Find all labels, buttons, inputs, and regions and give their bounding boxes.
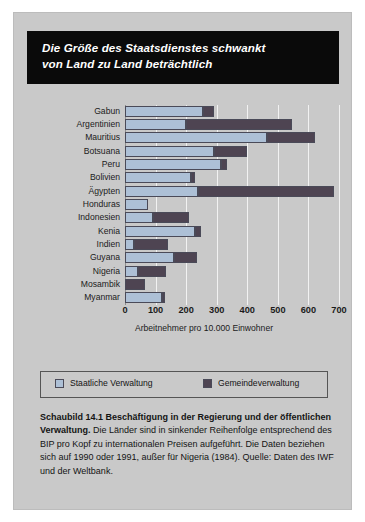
legend-swatch-dark bbox=[203, 379, 212, 388]
chart-bar-row: Ägypten bbox=[27, 186, 339, 199]
legend-label-gemeindeverwaltung: Gemeindeverwaltung bbox=[218, 378, 299, 388]
x-axis-title: Arbeitnehmer pro 10.000 Einwohner bbox=[27, 323, 339, 333]
chart-bar-row: Mosambik bbox=[27, 279, 339, 292]
bar-segment-staatliche bbox=[125, 292, 162, 303]
chart-bar-row: Indien bbox=[27, 239, 339, 252]
x-tick-label-100: 100 bbox=[141, 305, 171, 315]
legend-swatch-light bbox=[55, 379, 64, 388]
chart-bar-row: Guyana bbox=[27, 252, 339, 265]
figure-title-line-2: von Land zu Land beträchtlich bbox=[42, 57, 212, 70]
y-axis-label-nigeria: Nigeria bbox=[27, 265, 120, 278]
bar-chart: GabunArgentinienMauritiusBotsuanaPeruBol… bbox=[27, 91, 339, 319]
bar-segment-gemeinde bbox=[214, 146, 248, 157]
y-axis-label-myanmar: Myanmar bbox=[27, 291, 120, 304]
bar-segment-gemeinde bbox=[267, 132, 314, 143]
chart-bar-row: Botsuana bbox=[27, 146, 339, 159]
chart-legend: Staatliche Verwaltung Gemeindeverwaltung bbox=[40, 371, 328, 398]
x-tick-label-700: 700 bbox=[324, 305, 354, 315]
chart-bar-row: Argentinien bbox=[27, 119, 339, 132]
y-axis-label-guyana: Guyana bbox=[27, 251, 120, 264]
y-axis-label-indonesien: Indonesien bbox=[27, 211, 120, 224]
bar-segment-gemeinde bbox=[138, 266, 166, 277]
bar-segment-gemeinde bbox=[198, 186, 334, 197]
figure-caption: Schaubild 14.1 Beschäftigung in der Regi… bbox=[40, 411, 336, 478]
x-tick-label-500: 500 bbox=[263, 305, 293, 315]
chart-plot-area: GabunArgentinienMauritiusBotsuanaPeruBol… bbox=[27, 91, 339, 346]
bar-segment-staatliche bbox=[125, 226, 195, 237]
y-axis-label-botsuana: Botsuana bbox=[27, 145, 120, 158]
figure-title: Die Größe des Staatsdienstes schwankt vo… bbox=[42, 40, 332, 71]
bar-segment-gemeinde bbox=[191, 172, 196, 183]
bar-segment-gemeinde bbox=[195, 226, 201, 237]
bar-segment-staatliche bbox=[125, 146, 214, 157]
chart-bar-row: Nigeria bbox=[27, 266, 339, 279]
chart-bar-row: Kenia bbox=[27, 226, 339, 239]
chart-bar-row: Mauritius bbox=[27, 132, 339, 145]
bar-segment-gemeinde bbox=[153, 212, 190, 223]
x-tick-label-0: 0 bbox=[110, 305, 140, 315]
chart-bar-rows: GabunArgentinienMauritiusBotsuanaPeruBol… bbox=[27, 105, 339, 305]
legend-item-gemeindeverwaltung: Gemeindeverwaltung bbox=[203, 378, 299, 388]
bar-segment-gemeinde bbox=[174, 252, 197, 263]
chart-bar-row: Indonesien bbox=[27, 212, 339, 225]
bar-segment-staatliche bbox=[125, 212, 153, 223]
bar-segment-gemeinde bbox=[203, 106, 214, 117]
chart-bar-row: Myanmar bbox=[27, 292, 339, 305]
bar-segment-staatliche bbox=[125, 132, 267, 143]
y-axis-label-mauritius: Mauritius bbox=[27, 131, 120, 144]
chart-bar-row: Honduras bbox=[27, 199, 339, 212]
figure-title-line-1: Die Größe des Staatsdienstes schwankt bbox=[42, 41, 265, 54]
y-axis-label-bolivien: Bolivien bbox=[27, 171, 120, 184]
bar-segment-staatliche bbox=[125, 252, 174, 263]
y-axis-label-gabun: Gabun bbox=[27, 105, 120, 118]
x-tick-label-200: 200 bbox=[171, 305, 201, 315]
y-axis-label-argentinien: Argentinien bbox=[27, 118, 120, 131]
chart-bar-row: Gabun bbox=[27, 106, 339, 119]
x-axis-ticks: 0100200300400500600700 bbox=[27, 305, 339, 321]
y-axis-label-ägypten: Ägypten bbox=[27, 185, 120, 198]
bar-segment-gemeinde bbox=[221, 159, 227, 170]
legend-label-staatliche-verwaltung: Staatliche Verwaltung bbox=[70, 378, 153, 388]
x-tick-label-600: 600 bbox=[293, 305, 323, 315]
y-axis-label-kenia: Kenia bbox=[27, 225, 120, 238]
y-axis-label-honduras: Honduras bbox=[27, 198, 120, 211]
bar-segment-staatliche bbox=[125, 199, 148, 210]
y-axis-label-mosambik: Mosambik bbox=[27, 278, 120, 291]
bar-segment-staatliche bbox=[125, 106, 203, 117]
bar-segment-gemeinde bbox=[186, 119, 291, 130]
x-tick-label-300: 300 bbox=[202, 305, 232, 315]
y-axis-label-indien: Indien bbox=[27, 238, 120, 251]
bar-segment-gemeinde bbox=[134, 239, 168, 250]
legend-item-staatliche-verwaltung: Staatliche Verwaltung bbox=[55, 378, 153, 388]
chart-bar-row: Peru bbox=[27, 159, 339, 172]
title-banner: Die Größe des Staatsdienstes schwankt vo… bbox=[27, 31, 339, 84]
bar-segment-gemeinde bbox=[162, 292, 166, 303]
chart-bar-row: Bolivien bbox=[27, 172, 339, 185]
bar-segment-gemeinde bbox=[125, 279, 145, 290]
bar-segment-staatliche bbox=[125, 239, 134, 250]
x-tick-label-400: 400 bbox=[232, 305, 262, 315]
bar-segment-staatliche bbox=[125, 172, 191, 183]
bar-segment-staatliche bbox=[125, 186, 198, 197]
y-axis-label-peru: Peru bbox=[27, 158, 120, 171]
figure-container: Die Größe des Staatsdienstes schwankt vo… bbox=[13, 12, 352, 510]
gridline-700 bbox=[339, 105, 340, 305]
bar-segment-staatliche bbox=[125, 266, 138, 277]
bar-segment-staatliche bbox=[125, 159, 221, 170]
bar-segment-staatliche bbox=[125, 119, 186, 130]
